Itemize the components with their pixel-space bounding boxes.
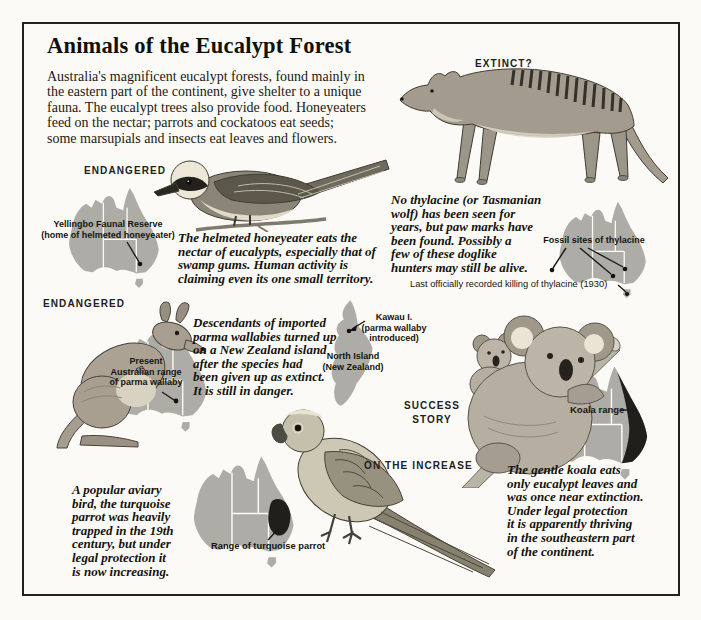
kawau-island-label: Kawau I. (parma wallaby introduced) <box>342 312 446 344</box>
north-island-label: North Island (New Zealand) <box>310 351 396 372</box>
intro-paragraph: Australia's magnificent eucalypt forests… <box>47 69 392 146</box>
thylacine-map-label: Fossil sites of thylacine <box>534 235 654 246</box>
wallaby-map-label: Present Australian range of parma wallab… <box>100 356 192 388</box>
status-endangered-wallaby: ENDANGERED <box>43 298 125 309</box>
honeyeater-map-label: Yellingbo Faunal Reserve (home of helmet… <box>32 219 184 240</box>
thylacine-caption: No thylacine (or Tasmanian wolf) has bee… <box>391 193 561 275</box>
page: Animals of the Eucalypt Forest Australia… <box>0 0 701 620</box>
status-success-story: SUCCESS STORY <box>398 399 466 427</box>
koala-map-label: Koala range <box>570 405 624 416</box>
parrot-caption: A popular aviary bird, the turquoise par… <box>72 483 227 578</box>
status-endangered-honeyeater: ENDANGERED <box>84 165 166 176</box>
thylacine-map-note: Last officially recorded killing of thyl… <box>410 279 607 290</box>
thylacine-illustration <box>384 36 684 188</box>
honeyeater-caption: The helmeted honeyeater eats the nectar … <box>178 231 403 285</box>
status-on-the-increase: ON THE INCREASE <box>364 460 473 471</box>
koala-caption: The gentle koala eats only eucalypt leav… <box>507 463 679 558</box>
parrot-map-label: Range of turquoise parrot <box>211 541 325 552</box>
page-title: Animals of the Eucalypt Forest <box>47 33 351 59</box>
status-extinct: EXTINCT? <box>475 58 533 69</box>
